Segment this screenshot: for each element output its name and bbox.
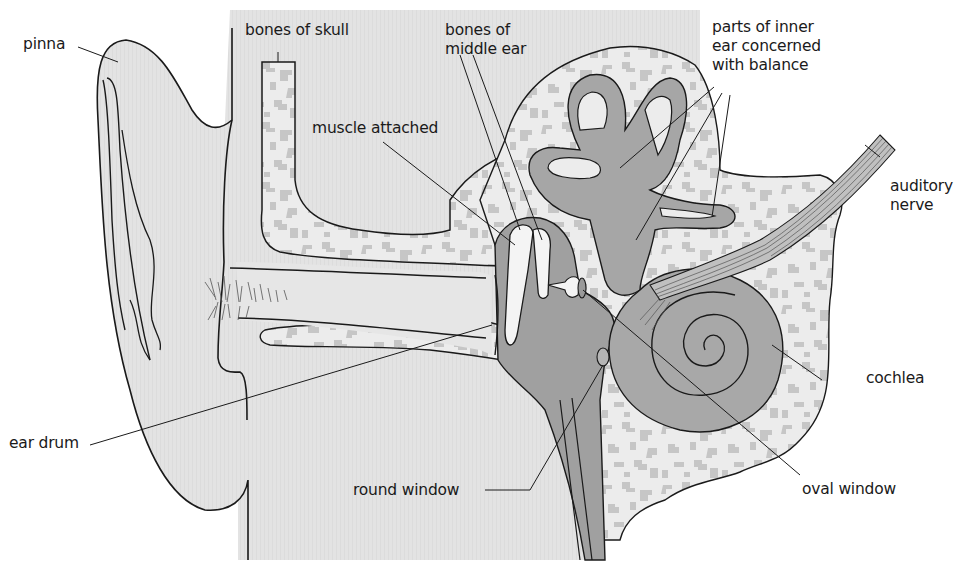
label-parts-of-inner-ear: parts of inner ear concerned with balanc…	[712, 18, 821, 75]
label-auditory-nerve: auditory nerve	[890, 177, 953, 215]
cochlea-shape	[609, 269, 783, 432]
label-bones-of-middle-ear: bones of middle ear	[445, 21, 526, 59]
label-bones-of-skull: bones of skull	[245, 21, 349, 40]
label-cochlea: cochlea	[866, 369, 924, 388]
label-ear-drum: ear drum	[9, 434, 79, 453]
label-pinna: pinna	[23, 35, 65, 54]
label-oval-window: oval window	[802, 480, 896, 499]
ear-diagram	[0, 0, 966, 562]
label-muscle-attached: muscle attached	[312, 119, 438, 138]
label-round-window: round window	[353, 481, 459, 500]
